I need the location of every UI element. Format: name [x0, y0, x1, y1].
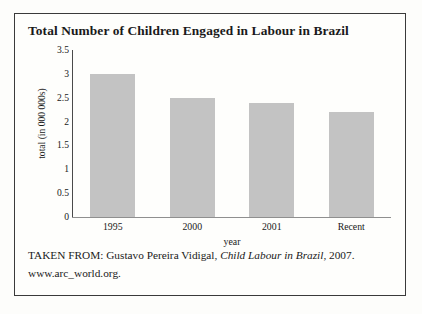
bar: [329, 112, 374, 217]
y-tick-label: 1.5: [33, 141, 69, 151]
bar: [170, 98, 215, 217]
x-tick-label: 2001: [232, 221, 312, 232]
y-tick-label: 2.5: [33, 93, 69, 103]
figure-frame: Total Number of Children Engaged in Labo…: [14, 13, 406, 296]
x-axis-label: year: [73, 236, 391, 247]
bar: [249, 103, 294, 218]
x-tick-label: 2000: [153, 221, 233, 232]
y-tick-label: 2: [33, 117, 69, 127]
caption-source-title: Child Labour in Brazil: [220, 249, 323, 261]
chart-title: Total Number of Children Engaged in Labo…: [28, 23, 349, 39]
y-tick-label: 0.5: [33, 188, 69, 198]
x-axis-line: [72, 217, 391, 218]
y-tick-label: 3: [33, 69, 69, 79]
y-tick-label: 0: [33, 212, 69, 222]
y-tick-label: 3.5: [33, 45, 69, 55]
y-tick-label: 1: [33, 164, 69, 174]
caption-suffix: , 2007.: [323, 249, 354, 261]
x-tick-label: 1995: [73, 221, 153, 232]
caption-url: www.arc_world.org.: [28, 267, 121, 279]
bar-chart-plot: total (in 000 000s) 00.511.522.533.5 199…: [15, 50, 405, 240]
caption-prefix: TAKEN FROM: Gustavo Pereira Vidigal,: [28, 249, 220, 261]
y-axis-tick-labels: 00.511.522.533.5: [33, 50, 69, 217]
x-tick-label: Recent: [312, 221, 392, 232]
source-caption: TAKEN FROM: Gustavo Pereira Vidigal, Chi…: [28, 247, 393, 282]
bar: [90, 74, 135, 217]
x-axis-tick-labels: 199520002001Recent: [73, 221, 391, 237]
bar-series: [73, 50, 391, 217]
